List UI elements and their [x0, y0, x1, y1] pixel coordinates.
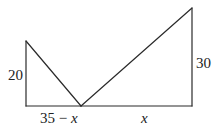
left-wire — [26, 41, 81, 106]
left-height-label: 20 — [8, 67, 23, 83]
right-height-label: 30 — [196, 55, 211, 71]
left-base-number: 35 − — [40, 110, 71, 126]
left-base-variable: x — [70, 110, 78, 126]
left-base-label: 35 − x — [40, 110, 78, 126]
right-base-label: x — [140, 110, 148, 126]
right-wire — [81, 8, 192, 106]
pole-wire-diagram: 20 30 35 − x x — [0, 0, 215, 127]
